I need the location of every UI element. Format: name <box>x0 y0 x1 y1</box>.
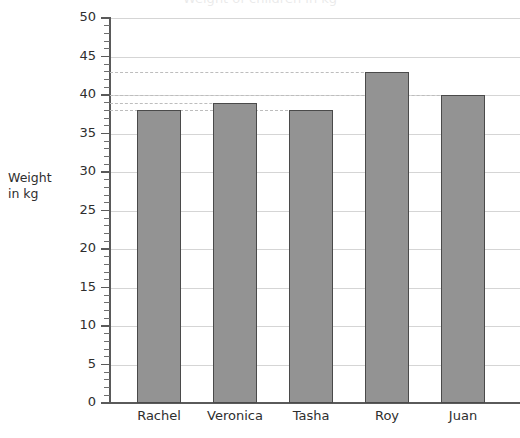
y-tick-minor <box>104 395 110 396</box>
bar-chart: Weight of children in kg Weight in kg 05… <box>0 0 520 438</box>
y-tick-minor <box>104 156 110 157</box>
y-tick-minor <box>104 118 110 119</box>
y-tick-minor <box>104 333 110 334</box>
y-tick-major <box>101 287 110 289</box>
y-tick-minor <box>104 310 110 311</box>
y-tick-minor <box>104 341 110 342</box>
y-tick-major <box>101 402 110 404</box>
y-tick-minor <box>104 41 110 42</box>
y-tick-minor <box>104 164 110 165</box>
x-tick-label: Juan <box>413 408 513 423</box>
y-tick-minor <box>104 225 110 226</box>
y-tick-minor <box>104 302 110 303</box>
y-tick-minor <box>104 48 110 49</box>
y-tick-minor <box>104 179 110 180</box>
bar <box>213 103 257 403</box>
bar <box>441 95 485 403</box>
bar <box>289 110 333 403</box>
y-tick-minor <box>104 372 110 373</box>
value-reference-line <box>110 95 485 96</box>
y-tick-major <box>101 56 110 58</box>
y-tick-label: 30 <box>58 163 96 178</box>
y-tick-minor <box>104 79 110 80</box>
y-tick-major <box>101 94 110 96</box>
y-tick-minor <box>104 195 110 196</box>
y-tick-minor <box>104 295 110 296</box>
y-tick-minor <box>104 218 110 219</box>
y-tick-minor <box>104 202 110 203</box>
y-tick-minor <box>104 264 110 265</box>
y-tick-minor <box>104 279 110 280</box>
y-tick-label: 10 <box>58 317 96 332</box>
y-tick-label: 25 <box>58 202 96 217</box>
y-tick-minor <box>104 187 110 188</box>
y-tick-minor <box>104 356 110 357</box>
y-tick-minor <box>104 256 110 257</box>
bar <box>365 72 409 403</box>
y-tick-label: 50 <box>58 9 96 24</box>
y-tick-major <box>101 325 110 327</box>
y-tick-minor <box>104 387 110 388</box>
y-tick-label: 0 <box>58 394 96 409</box>
chart-title: Weight of children in kg <box>0 0 520 6</box>
y-tick-major <box>101 210 110 212</box>
y-tick-minor <box>104 64 110 65</box>
y-tick-minor <box>104 233 110 234</box>
y-tick-label: 35 <box>58 125 96 140</box>
y-tick-label: 45 <box>58 48 96 63</box>
bar <box>137 110 181 403</box>
y-tick-major <box>101 171 110 173</box>
y-tick-minor <box>104 318 110 319</box>
y-tick-minor <box>104 241 110 242</box>
y-tick-minor <box>104 379 110 380</box>
y-tick-label: 20 <box>58 240 96 255</box>
y-tick-minor <box>104 141 110 142</box>
y-tick-minor <box>104 25 110 26</box>
y-tick-minor <box>104 349 110 350</box>
gridline <box>110 57 520 58</box>
y-tick-minor <box>104 272 110 273</box>
y-tick-label: 40 <box>58 86 96 101</box>
y-tick-major <box>101 17 110 19</box>
y-tick-minor <box>104 125 110 126</box>
y-tick-major <box>101 133 110 135</box>
y-tick-minor <box>104 87 110 88</box>
y-axis-title-line-2: in kg <box>8 186 70 202</box>
y-tick-major <box>101 364 110 366</box>
gridline <box>110 18 520 19</box>
y-tick-label: 15 <box>58 279 96 294</box>
y-tick-minor <box>104 148 110 149</box>
y-tick-major <box>101 248 110 250</box>
y-tick-minor <box>104 33 110 34</box>
y-tick-label: 5 <box>58 356 96 371</box>
